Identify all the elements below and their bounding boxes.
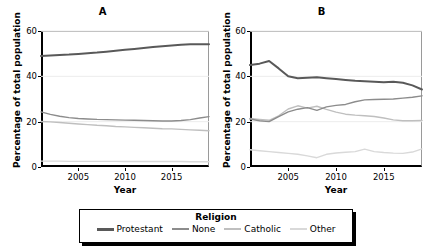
- series-line: [41, 112, 209, 121]
- chart-panel-a: A Percentage of total population Year 02…: [0, 0, 217, 200]
- legend-items: ProtestantNoneCatholicOther: [80, 224, 352, 234]
- series-line: [41, 121, 209, 130]
- legend-line-swatch: [290, 228, 307, 231]
- figure-container: A Percentage of total population Year 02…: [0, 0, 434, 252]
- series-line: [41, 44, 209, 56]
- series-line: [250, 149, 422, 158]
- chart-panel-b: B Percentage of total population Year 02…: [212, 0, 429, 200]
- legend-entry: None: [172, 224, 215, 234]
- series-line: [250, 61, 422, 90]
- legend-line-swatch: [172, 228, 189, 231]
- legend-line-swatch: [97, 228, 114, 231]
- legend-title: Religion: [80, 212, 352, 222]
- legend-entry: Protestant: [97, 224, 163, 234]
- legend-entry: Other: [290, 224, 336, 234]
- legend-line-swatch: [224, 228, 241, 231]
- legend-label: Protestant: [117, 224, 163, 234]
- legend: Religion ProtestantNoneCatholicOther: [79, 209, 353, 243]
- panel-b-series-lines: [212, 0, 429, 200]
- legend-label: Other: [310, 224, 336, 234]
- legend-label: None: [192, 224, 215, 234]
- legend-entry: Catholic: [224, 224, 281, 234]
- legend-label: Catholic: [244, 224, 281, 234]
- series-line: [41, 161, 209, 162]
- panel-a-series-lines: [0, 0, 217, 200]
- series-line: [250, 96, 422, 122]
